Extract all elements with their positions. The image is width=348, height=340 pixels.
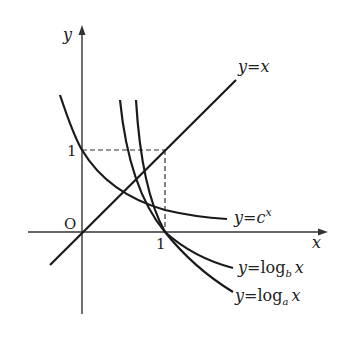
x-axis-label: x <box>312 233 321 252</box>
label-y-eq-c-pow-x: y=cx <box>233 206 272 227</box>
origin-label: O <box>64 215 76 233</box>
label-y-eq-log-b-x: y=logbx <box>237 258 304 279</box>
y-axis <box>79 25 86 314</box>
y-axis-arrow-icon <box>79 25 86 35</box>
x-tick-label-1: 1 <box>156 235 166 253</box>
label-y-eq-log-a-x: y=logax <box>234 286 300 307</box>
y-tick-label-1: 1 <box>67 142 77 160</box>
y-axis-label: y <box>62 25 73 44</box>
function-graph-diagram: y x O 1 1 y=x y=cx y=logbx y=logax <box>0 0 348 340</box>
curve-y-eq-x <box>50 80 236 265</box>
curve-y-eq-log-b-x <box>136 100 233 268</box>
label-y-eq-x: y=x <box>237 57 269 76</box>
